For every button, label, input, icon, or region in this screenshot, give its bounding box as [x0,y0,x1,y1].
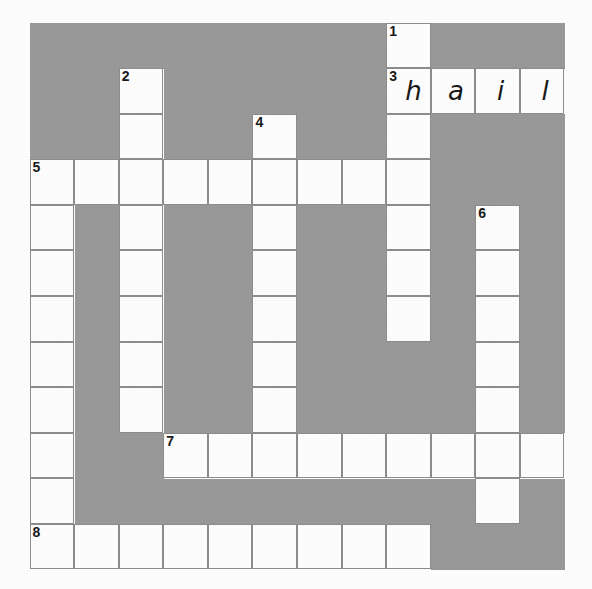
crossword-cell[interactable] [208,159,253,205]
crossword-cell[interactable]: 2 [119,68,164,114]
crossword-cell[interactable] [74,524,119,570]
crossword-cell[interactable] [30,342,75,388]
crossword-cell[interactable] [342,159,387,205]
crossword-block-cell [75,388,120,434]
crossword-cell[interactable] [520,433,565,479]
crossword-cell[interactable] [30,250,75,296]
crossword-block-cell [208,69,253,115]
crossword-cell[interactable] [342,524,387,570]
crossword-cell[interactable] [163,524,208,570]
crossword-cell[interactable] [119,342,164,388]
crossword-cell[interactable]: l [520,68,565,114]
crossword-grid[interactable]: 123hail45678 [30,23,565,570]
crossword-cell[interactable] [386,524,431,570]
crossword-block-cell [520,342,565,388]
crossword-cell[interactable] [297,433,342,479]
crossword-cell[interactable] [74,159,119,205]
crossword-cell[interactable] [297,159,342,205]
crossword-cell[interactable]: i [475,68,520,114]
crossword-block-cell [208,479,253,525]
crossword-cell[interactable] [252,342,297,388]
crossword-cell[interactable] [475,250,520,296]
crossword-cell[interactable]: 1 [386,23,431,69]
clue-number-1: 1 [389,24,397,39]
crossword-block-cell [75,114,120,160]
crossword-block-cell [431,205,476,251]
crossword-block-cell [208,205,253,251]
crossword-cell[interactable] [208,433,253,479]
crossword-block-cell [119,479,164,525]
crossword-block-cell [431,114,476,160]
crossword-cell[interactable] [119,250,164,296]
crossword-block-cell [164,114,209,160]
crossword-block-cell [520,205,565,251]
crossword-cell[interactable] [163,159,208,205]
crossword-cell[interactable] [30,205,75,251]
crossword-cell[interactable] [119,159,164,205]
crossword-block-cell [119,433,164,479]
crossword-cell[interactable] [119,205,164,251]
crossword-cell[interactable] [30,296,75,342]
crossword-cell[interactable] [252,296,297,342]
crossword-cell[interactable] [386,205,431,251]
crossword-cell[interactable] [475,342,520,388]
crossword-cell[interactable] [30,433,75,479]
crossword-block-cell [387,388,432,434]
crossword-cell[interactable]: 7 [163,433,208,479]
crossword-cell[interactable] [475,433,520,479]
crossword-cell[interactable] [119,387,164,433]
crossword-cell[interactable] [119,114,164,160]
crossword-cell[interactable] [119,296,164,342]
crossword-block-cell [431,23,476,69]
crossword-block-cell [342,114,387,160]
crossword-cell[interactable]: a [431,68,476,114]
crossword-cell[interactable] [386,114,431,160]
crossword-cell[interactable] [252,524,297,570]
crossword-block-cell [297,69,342,115]
crossword-cell[interactable]: 4 [252,114,297,160]
crossword-block-cell [297,342,342,388]
crossword-block-cell [208,251,253,297]
crossword-cell[interactable] [297,524,342,570]
crossword-block-cell [342,388,387,434]
crossword-cell[interactable] [208,524,253,570]
crossword-cell[interactable] [252,387,297,433]
cell-letter: a [432,69,475,113]
clue-number-5: 5 [33,160,41,175]
crossword-block-cell [520,388,565,434]
crossword-cell[interactable] [386,433,431,479]
crossword-block-cell [164,342,209,388]
crossword-block-cell [520,251,565,297]
crossword-cell[interactable] [475,478,520,524]
crossword-cell[interactable]: 3h [386,68,431,114]
crossword-cell[interactable]: 6 [475,205,520,251]
crossword-cell[interactable] [386,159,431,205]
crossword-cell[interactable] [30,478,75,524]
crossword-block-cell [30,23,75,69]
crossword-cell[interactable] [252,205,297,251]
crossword-cell[interactable] [252,433,297,479]
crossword-block-cell [476,114,521,160]
crossword-cell[interactable] [475,296,520,342]
crossword-block-cell [431,342,476,388]
crossword-cell[interactable] [386,250,431,296]
crossword-cell[interactable] [431,433,476,479]
crossword-block-cell [297,205,342,251]
crossword-cell[interactable]: 8 [30,524,75,570]
crossword-block-cell [387,479,432,525]
crossword-cell[interactable] [386,296,431,342]
crossword-block-cell [164,205,209,251]
clue-number-7: 7 [166,434,174,449]
crossword-cell[interactable] [475,387,520,433]
crossword-cell[interactable] [30,387,75,433]
crossword-block-cell [431,296,476,342]
crossword-cell[interactable]: 5 [30,159,75,205]
crossword-cell[interactable] [252,159,297,205]
crossword-block-cell [253,479,298,525]
crossword-cell[interactable] [342,433,387,479]
crossword-block-cell [342,23,387,69]
crossword-cell[interactable] [252,250,297,296]
crossword-block-cell [431,479,476,525]
crossword-block-cell [75,23,120,69]
crossword-cell[interactable] [119,524,164,570]
